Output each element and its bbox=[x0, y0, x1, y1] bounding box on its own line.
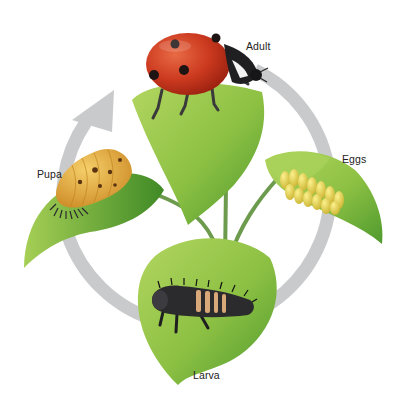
stage-label-pupa: Pupa bbox=[37, 168, 62, 180]
lifecycle-illustration bbox=[0, 0, 402, 408]
stage-label-adult: Adult bbox=[246, 40, 270, 52]
lifecycle-diagram: Adult Eggs Larva Pupa bbox=[0, 0, 402, 408]
stage-label-larva: Larva bbox=[193, 369, 220, 381]
stage-label-eggs: Eggs bbox=[342, 153, 366, 165]
